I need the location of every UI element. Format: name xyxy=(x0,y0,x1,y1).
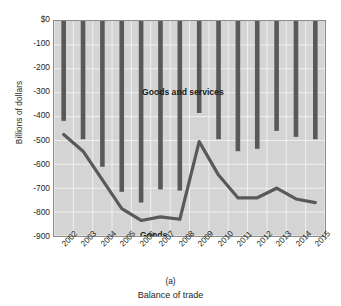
bar-2010 xyxy=(216,21,221,139)
bar-2005 xyxy=(119,21,124,192)
gridlines xyxy=(54,21,325,236)
bar-2009 xyxy=(197,21,202,113)
y-axis-tick-3: -300 xyxy=(6,87,50,95)
y-axis-tick-6: -600 xyxy=(6,160,50,168)
y-axis-tick-4: -400 xyxy=(6,111,50,119)
bar-2014 xyxy=(294,21,299,137)
bar-2015 xyxy=(313,21,318,139)
x-axis-tick-labels: 2002200320042005200620072008200920102011… xyxy=(0,238,341,278)
bar-2002 xyxy=(61,21,66,121)
y-axis-tick-5: -500 xyxy=(6,136,50,144)
bar-2013 xyxy=(274,21,279,131)
bar-2004 xyxy=(100,21,105,167)
figure-caption-title: Balance of trade xyxy=(0,290,341,300)
bar-2006 xyxy=(139,21,144,203)
bar-2007 xyxy=(158,21,163,189)
y-axis-tick-2: -200 xyxy=(6,63,50,71)
y-axis-tick-1: -100 xyxy=(6,39,50,47)
bar-2003 xyxy=(81,21,86,139)
chart-canvas xyxy=(54,21,325,236)
bar-2012 xyxy=(255,21,260,149)
plot-area: Goods and services Goods xyxy=(53,20,326,237)
y-axis-tick-7: -700 xyxy=(6,184,50,192)
annotation-goods-and-services: Goods and services xyxy=(142,87,224,97)
y-axis-tick-0: $0 xyxy=(6,15,50,23)
bar-2008 xyxy=(178,21,183,191)
bar-2011 xyxy=(236,21,241,151)
balance-of-trade-figure: Billions of dollars $0-100-200-300-400-5… xyxy=(0,0,341,306)
figure-caption-label: (a) xyxy=(0,276,341,286)
y-axis-tick-8: -800 xyxy=(6,208,50,216)
